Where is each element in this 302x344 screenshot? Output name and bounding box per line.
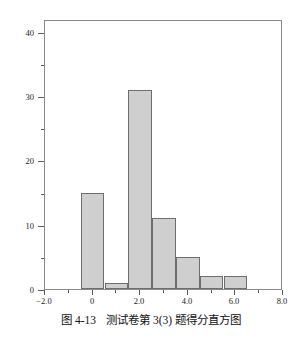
x-axis-tick-label: 8.0 — [262, 296, 302, 306]
x-axis-tick-label: 6.0 — [214, 296, 254, 306]
x-axis-minor-tick — [211, 290, 212, 293]
histogram-bar — [152, 218, 176, 289]
caption-text: 测试卷第 3(3) 题得分直方图 — [106, 314, 241, 326]
x-axis-tick — [92, 290, 93, 295]
x-axis-tick-label: 2.0 — [119, 296, 159, 306]
x-axis-tick — [282, 290, 283, 295]
plot-area — [44, 20, 282, 290]
histogram-bar — [81, 193, 105, 289]
y-axis-tick-label: 0 — [0, 286, 34, 295]
y-axis-tick-label: 40 — [0, 29, 34, 38]
x-axis-tick — [44, 290, 45, 295]
histogram-bar — [224, 276, 248, 289]
caption-number: 图 4-13 — [61, 314, 96, 326]
x-axis-tick-label: 4.0 — [167, 296, 207, 306]
x-axis-minor-tick — [258, 290, 259, 293]
x-axis-tick — [187, 290, 188, 295]
x-axis-tick-label: 0 — [72, 296, 112, 306]
histogram-bar — [105, 283, 129, 289]
histogram-bar — [200, 276, 224, 289]
y-axis-tick-label: 30 — [0, 93, 34, 102]
y-axis-tick-label: 20 — [0, 157, 34, 166]
x-axis-minor-tick — [115, 290, 116, 293]
x-axis-tick — [139, 290, 140, 295]
histogram-bar — [176, 257, 200, 289]
x-axis-tick — [234, 290, 235, 295]
figure-caption: 图 4-13测试卷第 3(3) 题得分直方图 — [0, 312, 302, 328]
x-axis-minor-tick — [68, 290, 69, 293]
x-axis-tick-label: −2.0 — [24, 296, 64, 306]
histogram-figure: 010203040 −2.002.04.06.08.0 图 4-13测试卷第 3… — [0, 0, 302, 344]
y-axis-tick-label: 10 — [0, 222, 34, 231]
histogram-bar — [128, 90, 152, 289]
x-axis-minor-tick — [163, 290, 164, 293]
